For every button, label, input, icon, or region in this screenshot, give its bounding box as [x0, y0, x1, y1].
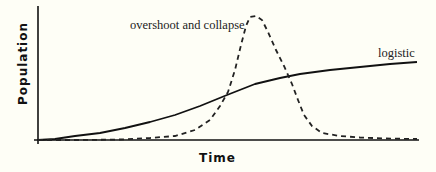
- overshoot-label: overshoot and collapse: [130, 18, 245, 32]
- overshoot-collapse-curve: [38, 16, 417, 140]
- population-chart: overshoot and collapse logistic Time Pop…: [0, 0, 436, 172]
- y-axis-label: Population: [16, 22, 30, 105]
- logistic-label: logistic: [378, 46, 415, 60]
- x-axis-label: Time: [199, 151, 236, 165]
- logistic-curve: [38, 62, 417, 140]
